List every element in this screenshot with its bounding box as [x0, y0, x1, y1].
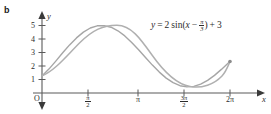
equation-close-paren: ) — [204, 20, 207, 30]
figure-panel: b — [0, 0, 271, 114]
sine-curve-overlay — [42, 25, 232, 87]
x-tick-label-pi-over-2: π2 — [80, 95, 96, 109]
y-tick-label-3: 3 — [28, 48, 38, 57]
equation-equals: = — [157, 20, 162, 30]
equation-phase-denominator: 3 — [199, 26, 204, 33]
x-tick-label-3pi-over-2: 3π2 — [175, 95, 193, 109]
equation-variable: x — [186, 20, 190, 30]
equation-phase-fraction: π3 — [199, 19, 204, 33]
equation-annotation: y=2sin(x−π3)+3 — [151, 19, 222, 33]
x-axis-label: x — [262, 95, 266, 104]
equation-minus: − — [192, 20, 197, 30]
y-tick-label-2: 2 — [28, 62, 38, 71]
y-tick-label-1: 1 — [28, 75, 38, 84]
equation-lhs: y — [151, 20, 155, 30]
equation-plus: + — [210, 20, 215, 30]
curve-endpoint-marker — [228, 60, 232, 64]
y-tick-label-5: 5 — [28, 21, 38, 30]
equation-amplitude: 2 — [165, 20, 170, 30]
equation-vertical-shift: 3 — [217, 20, 222, 30]
y-tick-label-4: 4 — [28, 35, 38, 44]
x-tick-label-pi: π — [132, 95, 144, 104]
x-tick-label-2pi: 2π — [222, 95, 238, 104]
equation-function: sin — [171, 20, 182, 30]
origin-label: O — [31, 94, 43, 103]
y-axis-label: y — [47, 12, 51, 21]
